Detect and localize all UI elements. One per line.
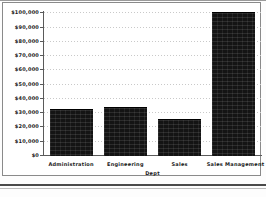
y-axis-tick-label-text: $20,000 bbox=[0, 123, 39, 129]
chart-page: $0$10,000$20,000$30,000$40,000$50,000$60… bbox=[0, 0, 266, 197]
y-axis-tick bbox=[40, 69, 44, 70]
y-axis-tick-label: $20,000 bbox=[0, 123, 39, 129]
y-axis-tick-label-text: $0 bbox=[0, 152, 39, 158]
x-axis-tick-label: Sales Management bbox=[207, 161, 261, 168]
y-axis-tick bbox=[40, 41, 44, 42]
page-bottom-rule-secondary bbox=[0, 188, 266, 189]
y-axis-tick-label: $90,000 bbox=[0, 24, 39, 30]
y-axis-tick-label: $60,000 bbox=[0, 66, 39, 72]
y-axis-tick-label-text: $30,000 bbox=[0, 109, 39, 115]
bar bbox=[104, 107, 147, 156]
y-axis-tick-label-text: $50,000 bbox=[0, 81, 39, 87]
y-axis-tick bbox=[40, 55, 44, 56]
y-axis-tick-label-text: $100,000 bbox=[0, 9, 39, 15]
y-axis-tick bbox=[40, 98, 44, 99]
y-axis-tick-label: $100,000 bbox=[0, 9, 39, 15]
x-axis-title: Dept bbox=[44, 170, 261, 176]
y-axis-tick-label-text: $80,000 bbox=[0, 38, 39, 44]
y-axis-tick-label-text: $70,000 bbox=[0, 52, 39, 58]
y-axis-tick-label: $30,000 bbox=[0, 109, 39, 115]
x-axis-tick-label: Engineering bbox=[98, 161, 152, 168]
y-axis-tick bbox=[40, 112, 44, 113]
bar bbox=[50, 109, 93, 156]
y-axis-tick-label: $10,000 bbox=[0, 138, 39, 144]
y-axis-tick bbox=[40, 155, 44, 156]
y-axis-tick bbox=[40, 12, 44, 13]
y-axis-tick bbox=[40, 126, 44, 127]
y-axis-tick-label-text: $90,000 bbox=[0, 24, 39, 30]
x-axis-tick-label: Sales bbox=[153, 161, 207, 168]
y-axis-tick-label: $70,000 bbox=[0, 52, 39, 58]
y-axis-tick-label: $0 bbox=[0, 152, 39, 158]
bar bbox=[212, 12, 255, 156]
x-axis-tick-label: Administration bbox=[44, 161, 98, 168]
y-axis-tick-label-text: $60,000 bbox=[0, 66, 39, 72]
y-axis-tick-label-text: $10,000 bbox=[0, 138, 39, 144]
bar bbox=[158, 119, 201, 156]
y-axis-tick-label: $50,000 bbox=[0, 81, 39, 87]
bar-chart: $0$10,000$20,000$30,000$40,000$50,000$60… bbox=[0, 0, 266, 197]
y-axis-tick bbox=[40, 141, 44, 142]
y-axis-tick-label: $80,000 bbox=[0, 38, 39, 44]
y-axis-tick bbox=[40, 27, 44, 28]
y-axis-tick-label: $40,000 bbox=[0, 95, 39, 101]
y-axis-tick bbox=[40, 84, 44, 85]
y-axis-tick-label-text: $40,000 bbox=[0, 95, 39, 101]
page-bottom-rule bbox=[0, 184, 266, 186]
